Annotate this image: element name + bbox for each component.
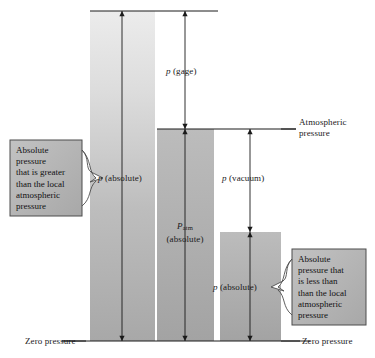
label-p-gage-rest: (gage) [171,66,197,76]
label-zero-pressure-left: Zero pressure [25,336,76,347]
label-p-absolute-left: p (absolute) [98,173,142,184]
label-p-vacuum: p (vacuum) [222,173,264,184]
label-zero-pressure-right: Zero pressure [302,336,353,347]
label-atmospheric-pressure: Atmospheric pressure [299,117,347,138]
label-p-vacuum-rest: (vacuum) [227,173,265,183]
label-p-gage: p (gage) [166,66,197,77]
label-p-atm-absolute: (absolute) [167,234,204,244]
callout-left-text: Absolute pressure that is greater than t… [16,145,80,212]
label-p-absolute-right-rest: (absolute) [218,282,257,292]
label-p-absolute-right: p (absolute) [213,282,257,293]
label-p-absolute-left-rest: (absolute) [103,173,142,183]
callout-right-text: Absolute pressure that is less than than… [298,254,364,321]
label-p-atm-subscript: atm [183,224,193,231]
pressure-diagram-figure: p (absolute) p (gage) Patm(absolute) p (… [0,0,375,358]
label-p-atm: Patm(absolute) [153,221,217,244]
